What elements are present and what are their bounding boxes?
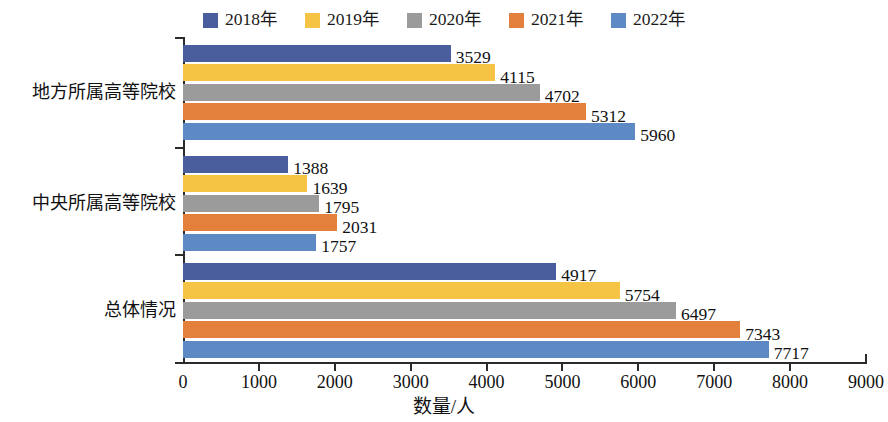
x-tick-label-4000: 4000 <box>469 373 505 391</box>
bar <box>183 282 620 299</box>
bar <box>183 123 635 140</box>
x-axis-title: 数量/人 <box>0 397 888 416</box>
x-axis-tick-5000 <box>561 363 563 371</box>
y-axis-tick-2 <box>175 254 184 256</box>
bar-value-label: 2031 <box>342 219 377 237</box>
bar <box>183 84 540 101</box>
bar-value-label: 5960 <box>640 127 675 145</box>
category-label: 地方所属高等院校 <box>32 83 176 101</box>
bar-value-label: 1757 <box>321 238 356 256</box>
x-tick-label-5000: 5000 <box>544 373 580 391</box>
x-axis-tick-6000 <box>637 363 639 371</box>
bar <box>183 341 769 358</box>
bar-value-label: 7717 <box>774 345 809 363</box>
x-axis-tick-4000 <box>486 363 488 371</box>
bar <box>183 195 319 212</box>
x-axis-line <box>183 362 867 364</box>
y-axis-tick-1 <box>175 147 184 149</box>
x-tick-label-3000: 3000 <box>393 373 429 391</box>
bar <box>183 175 307 192</box>
bar <box>183 234 316 251</box>
y-axis-tick-0 <box>175 37 184 39</box>
x-tick-label-0: 0 <box>179 373 188 391</box>
x-axis-tick-8000 <box>789 363 791 371</box>
plot-area: 3529411547025312596013881639179520311757… <box>0 0 888 422</box>
category-label: 中央所属高等院校 <box>32 194 176 212</box>
x-axis-tick-3000 <box>410 363 412 371</box>
bar <box>183 45 451 62</box>
x-axis-tick-2000 <box>334 363 336 371</box>
bar <box>183 302 676 319</box>
bar <box>183 103 586 120</box>
x-axis-tick-1000 <box>258 363 260 371</box>
bar <box>183 214 337 231</box>
x-tick-label-8000: 8000 <box>772 373 808 391</box>
x-axis-tick-7000 <box>713 363 715 371</box>
bar <box>183 156 288 173</box>
x-tick-label-2000: 2000 <box>317 373 353 391</box>
bar <box>183 64 495 81</box>
x-tick-label-7000: 7000 <box>696 373 732 391</box>
x-tick-label-6000: 6000 <box>620 373 656 391</box>
bar-chart: 2018年 2019年 2020年 2021年 2022年 3529411547… <box>0 0 888 422</box>
bar <box>183 263 556 280</box>
x-tick-label-9000: 9000 <box>848 373 884 391</box>
bar <box>183 321 740 338</box>
y-axis-tick-3 <box>175 362 184 364</box>
x-axis-tick-9000 <box>865 354 867 363</box>
x-tick-label-1000: 1000 <box>241 373 277 391</box>
category-label: 总体情况 <box>104 301 176 319</box>
